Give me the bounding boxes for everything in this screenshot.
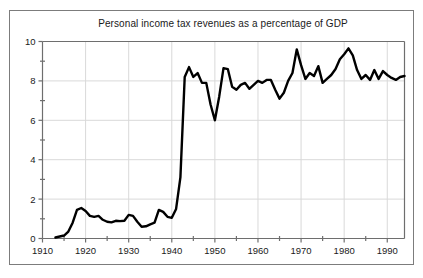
x-tick-label: 1950 (204, 245, 225, 256)
x-tick-label: 1980 (334, 245, 355, 256)
y-tick-label: 8 (30, 75, 35, 86)
x-tick-label: 1960 (247, 245, 268, 256)
x-tick-label: 1940 (161, 245, 182, 256)
x-axis-tick-labels: 191019201930194019501960197019801990 (32, 245, 398, 256)
x-tick-label: 1970 (291, 245, 312, 256)
x-tick-label: 1990 (377, 245, 398, 256)
data-series-line (55, 48, 404, 237)
y-tick-label: 0 (30, 233, 35, 244)
y-tick-label: 4 (30, 154, 35, 165)
y-axis-tick-labels: 0246810 (25, 36, 36, 244)
chart-figure: Personal income tax revenues as a percen… (0, 0, 423, 278)
x-tick-label: 1910 (32, 245, 53, 256)
series-polyline (55, 48, 404, 237)
line-chart-plot: 0246810 19101920193019401950196019701980… (0, 0, 423, 278)
y-tick-label: 2 (30, 194, 35, 205)
x-tick-label: 1930 (118, 245, 139, 256)
x-tick-label: 1920 (75, 245, 96, 256)
y-tick-label: 10 (25, 36, 36, 47)
y-tick-label: 6 (30, 115, 35, 126)
